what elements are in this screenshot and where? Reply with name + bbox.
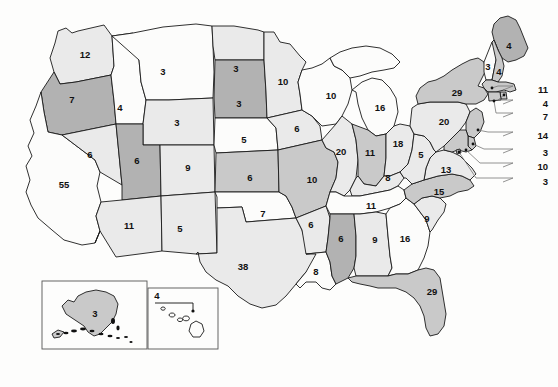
- label-SC: 9: [424, 213, 429, 224]
- state-FL[interactable]: [348, 268, 446, 336]
- label-OR: 7: [69, 94, 74, 105]
- label-ME: 4: [506, 40, 512, 51]
- label-UT: 6: [134, 155, 139, 166]
- callout-value-labels: 11 4 7 14 3 10 3: [537, 84, 548, 187]
- label-TX: 38: [238, 261, 249, 272]
- label-WY: 3: [174, 117, 179, 128]
- label-OH: 18: [393, 138, 404, 149]
- label-VA: 13: [441, 164, 452, 175]
- label-FL: 29: [427, 286, 438, 297]
- callout-label-DE: 3: [543, 147, 548, 158]
- label-WA: 12: [80, 49, 91, 60]
- label-CA: 55: [59, 179, 70, 190]
- label-GA: 16: [400, 233, 411, 244]
- us-electoral-map: 12 7 55 6 4 3 3 6 11 9 5 3 3 5 6 7 38 10…: [0, 0, 558, 387]
- label-ID: 4: [117, 102, 123, 113]
- map-svg: 12 7 55 6 4 3 3 6 11 9 5 3 3 5 6 7 38 10…: [0, 0, 558, 387]
- label-IL: 20: [336, 146, 347, 157]
- callout-label-CT: 7: [543, 111, 548, 122]
- label-PA: 20: [439, 116, 450, 127]
- label-HI: 4: [154, 290, 160, 301]
- label-AL: 9: [372, 234, 377, 245]
- label-OK: 7: [260, 208, 265, 219]
- label-NV: 6: [87, 149, 92, 160]
- label-IA: 6: [294, 123, 299, 134]
- label-WV: 5: [418, 149, 424, 160]
- label-MO: 10: [307, 174, 318, 185]
- label-AK: 3: [92, 308, 97, 319]
- label-AR: 6: [308, 219, 313, 230]
- label-VT: 4: [496, 66, 502, 77]
- label-NM: 5: [177, 223, 183, 234]
- callout-label-DC: 3: [543, 176, 548, 187]
- label-NH: 3: [485, 61, 490, 72]
- state-ND[interactable]: [212, 26, 264, 60]
- state-NM[interactable]: [161, 192, 217, 254]
- state-OR[interactable]: [41, 72, 116, 135]
- label-NY: 29: [452, 87, 463, 98]
- label-LA: 8: [313, 266, 318, 277]
- callout-label-MA: 11: [538, 84, 549, 95]
- hawaii-islands: [155, 303, 204, 337]
- label-KY: 8: [385, 172, 390, 183]
- callout-label-MD: 10: [537, 161, 548, 172]
- label-MI: 16: [375, 102, 386, 113]
- callout-label-NJ: 14: [537, 130, 548, 141]
- state-AK[interactable]: [52, 290, 118, 338]
- label-MN: 10: [278, 76, 289, 87]
- label-KS: 6: [247, 172, 252, 183]
- label-NE: 5: [241, 134, 247, 145]
- callout-label-RI: 4: [543, 98, 549, 109]
- label-MT: 3: [160, 66, 165, 77]
- label-SD: 3: [236, 98, 241, 109]
- label-AZ: 11: [124, 220, 135, 231]
- label-NC: 15: [434, 186, 445, 197]
- label-IN: 11: [365, 147, 376, 158]
- label-WI: 10: [326, 90, 337, 101]
- label-CO: 9: [185, 162, 190, 173]
- label-TN: 11: [366, 200, 377, 211]
- label-MS: 6: [338, 233, 343, 244]
- label-ND: 3: [233, 63, 238, 74]
- state-SD[interactable]: [214, 60, 267, 118]
